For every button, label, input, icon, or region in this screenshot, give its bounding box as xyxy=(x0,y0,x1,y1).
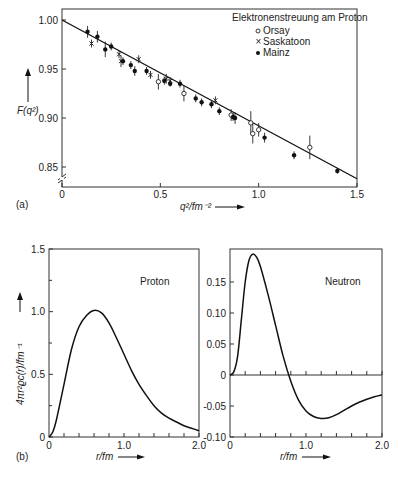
svg-text:0.5: 0.5 xyxy=(153,189,167,200)
plot-frame-a xyxy=(62,9,357,187)
legend-label-saskatoon: Saskatoon xyxy=(263,36,310,47)
legend-title: Elektronenstreuung am Proton xyxy=(232,12,368,23)
arrow-right-icon xyxy=(237,205,245,210)
svg-text:1.0: 1.0 xyxy=(31,306,45,317)
svg-text:F(q²): F(q²) xyxy=(17,105,39,116)
svg-text:1.0: 1.0 xyxy=(252,189,266,200)
svg-text:0.15: 0.15 xyxy=(207,277,227,288)
arrow-right-icon xyxy=(323,455,331,460)
orsay-marker-icon xyxy=(256,29,260,33)
fit-line xyxy=(62,20,357,179)
x-axis-label-a: q²/fm⁻² xyxy=(180,201,245,212)
svg-text:-0.10: -0.10 xyxy=(203,432,226,443)
neutron-label: Neutron xyxy=(325,276,361,287)
svg-text:1.00: 1.00 xyxy=(39,15,59,26)
x-axis-label-proton: r/fm xyxy=(96,451,145,462)
svg-text:0.5: 0.5 xyxy=(31,369,45,380)
mainz-marker-icon xyxy=(256,51,260,55)
arrow-right-icon xyxy=(137,455,145,460)
axis-ticks-neutron: -0.10-0.0500.050.100.1501.02.0 xyxy=(203,277,389,452)
panel-label-b: (b) xyxy=(16,451,28,462)
axis-ticks-proton: 00.51.01.501.02.0 xyxy=(31,244,206,452)
svg-text:1.5: 1.5 xyxy=(31,244,45,255)
legend-label-orsay: Orsay xyxy=(263,25,290,36)
panel-label-a: (a) xyxy=(16,199,28,210)
svg-text:0.05: 0.05 xyxy=(207,339,227,350)
svg-text:0.95: 0.95 xyxy=(39,64,59,75)
y-axis-label-a: F(q²) xyxy=(17,68,39,116)
x-axis-ticks-a: 00.51.01.5 xyxy=(59,183,364,200)
svg-text:0: 0 xyxy=(227,440,233,451)
panel-b-neutron-chart: -0.10-0.0500.050.100.1501.02.0 Neutron r… xyxy=(203,249,389,462)
plot-frame-proton xyxy=(49,249,199,437)
svg-text:0: 0 xyxy=(46,440,52,451)
proton-density-curve xyxy=(49,310,199,437)
svg-text:0.90: 0.90 xyxy=(39,113,59,124)
svg-text:1.5: 1.5 xyxy=(350,189,364,200)
svg-text:0: 0 xyxy=(59,189,65,200)
data-points xyxy=(85,26,339,174)
x-axis-label-neutron: r/fm xyxy=(280,451,331,462)
svg-text:r/fm: r/fm xyxy=(280,451,297,462)
svg-text:-0.05: -0.05 xyxy=(203,401,226,412)
arrow-up-icon xyxy=(25,68,31,76)
svg-text:4πr²ϱc(r)/fm⁻¹: 4πr²ϱc(r)/fm⁻¹ xyxy=(15,342,26,405)
svg-text:1.0: 1.0 xyxy=(299,440,313,451)
proton-label: Proton xyxy=(140,276,169,287)
svg-text:0: 0 xyxy=(220,370,226,381)
y-axis-label-b: 4πr²ϱc(r)/fm⁻¹ xyxy=(15,292,26,405)
panel-b-proton-chart: 00.51.01.501.02.0 Proton 4πr²ϱc(r)/fm⁻¹ … xyxy=(15,244,206,463)
svg-text:0.10: 0.10 xyxy=(207,308,227,319)
panel-a-scatter-chart: 0.850.900.951.00 00.51.01.5 Elektronenst… xyxy=(16,9,368,212)
svg-text:1.0: 1.0 xyxy=(117,440,131,451)
svg-text:0.85: 0.85 xyxy=(39,162,59,173)
legend: Elektronenstreuung am Proton Orsay × Sas… xyxy=(232,12,368,58)
svg-text:0: 0 xyxy=(39,432,45,443)
legend-label-mainz: Mainz xyxy=(263,47,290,58)
saskatoon-marker-icon: × xyxy=(256,36,262,47)
svg-text:q²/fm⁻²: q²/fm⁻² xyxy=(180,201,212,212)
svg-text:r/fm: r/fm xyxy=(96,451,113,462)
figure: 0.850.900.951.00 00.51.01.5 Elektronenst… xyxy=(0,0,401,482)
arrow-up-icon xyxy=(17,292,23,300)
svg-text:2.0: 2.0 xyxy=(375,440,389,451)
